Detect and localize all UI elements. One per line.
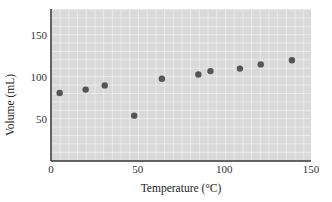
data-point [207,68,213,74]
y-tick-label: 50 [36,113,48,125]
x-tick-label: 150 [303,163,320,175]
data-point [131,112,137,118]
scatter-chart: 050100150 50100150 Temperature (°C) Volu… [0,0,332,202]
y-axis-label: Volume (mL) [4,74,17,136]
data-point [237,65,243,71]
y-tick-labels: 50100150 [31,29,48,125]
data-point [102,82,108,88]
data-point [258,61,264,67]
data-point [82,86,88,92]
data-point [289,57,295,63]
y-tick-label: 150 [31,29,48,41]
x-axis-label: Temperature (°C) [141,182,222,195]
data-point [56,90,62,96]
plot-area [51,9,311,161]
x-tick-label: 0 [48,163,54,175]
x-tick-label: 50 [132,163,144,175]
x-tick-label: 100 [216,163,233,175]
x-tick-labels: 050100150 [48,163,320,175]
data-point [195,71,201,77]
y-tick-label: 100 [31,71,48,83]
data-point [159,75,165,81]
